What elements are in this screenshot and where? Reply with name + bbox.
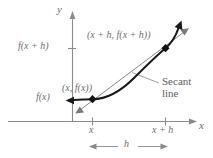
h-arrowhead-left (89, 144, 97, 150)
h-interval-label: h (124, 139, 129, 150)
x-axis-label: x (199, 120, 204, 132)
point-label-x-fx: (x, f(x)) (62, 83, 92, 94)
point-marker-x-fx (88, 95, 96, 103)
x-tick-label-x: x (89, 125, 93, 136)
secant-line-figure: y x f(x + h) f(x) x x + h (x, f(x)) (x +… (0, 0, 213, 158)
h-arrowhead-right (161, 144, 169, 150)
x-tick-label-x-plus-h: x + h (152, 125, 173, 136)
secant-line-annotation-line1: Secant (162, 75, 191, 87)
y-tick-label-f-x-plus-h: f(x + h) (18, 41, 49, 52)
point-label-xh-fxh: (x + h, f(x + h)) (87, 30, 150, 41)
y-tick-label-f-x: f(x) (36, 92, 50, 103)
curve-arrowhead-lower (66, 97, 75, 104)
y-axis-label: y (57, 4, 62, 16)
y-axis-arrowhead (70, 11, 76, 19)
secant-line-annotation-line2: line (162, 87, 179, 99)
secant-label-leader-group (132, 73, 159, 84)
secant-label-leader-line (132, 73, 159, 84)
x-axis-arrowhead (189, 119, 197, 125)
